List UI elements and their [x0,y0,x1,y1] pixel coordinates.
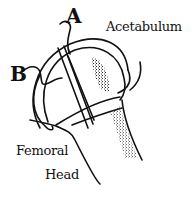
label-acetabulum: Acetabulum [106,20,182,33]
label-head: Head [45,168,79,181]
measure-line-a [58,48,88,128]
acetabulum-leader [130,62,141,90]
label-femoral: Femoral [16,144,68,157]
stipple-shading [92,58,110,92]
diagram: A B Acetabulum Femoral Head [0,0,195,199]
label-b: B [10,64,27,84]
label-a: A [66,6,82,26]
